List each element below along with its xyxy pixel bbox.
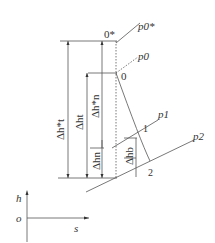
- diagram-svg: 0* 0 1 2 p0* p0 p1 p2 Δh*t Δht Δh*n Δhn …: [0, 0, 215, 243]
- isobar-p0star: [116, 23, 140, 43]
- axis-label-s: s: [74, 222, 78, 234]
- label-p0: p0: [137, 50, 150, 62]
- label-p0star: p0*: [137, 20, 155, 32]
- axis-origin: o: [16, 212, 22, 224]
- label-2: 2: [148, 167, 153, 178]
- label-0star: 0*: [104, 28, 115, 40]
- label-p1: p1: [157, 108, 169, 120]
- label-1: 1: [143, 123, 148, 134]
- label-dht-star: Δh*t: [54, 119, 66, 140]
- label-p2: p2: [192, 130, 205, 142]
- isobar-p0: [116, 57, 138, 73]
- label-0: 0: [121, 70, 127, 82]
- label-dht: Δht: [73, 114, 85, 130]
- h-s-diagram: 0* 0 1 2 p0* p0 p1 p2 Δh*t Δht Δh*n Δhn …: [0, 0, 215, 243]
- label-dhn: Δhn: [90, 151, 102, 170]
- label-dhb: Δhb: [123, 146, 135, 165]
- label-dhn-star: Δh*n: [89, 94, 101, 118]
- axis-label-h: h: [16, 192, 22, 204]
